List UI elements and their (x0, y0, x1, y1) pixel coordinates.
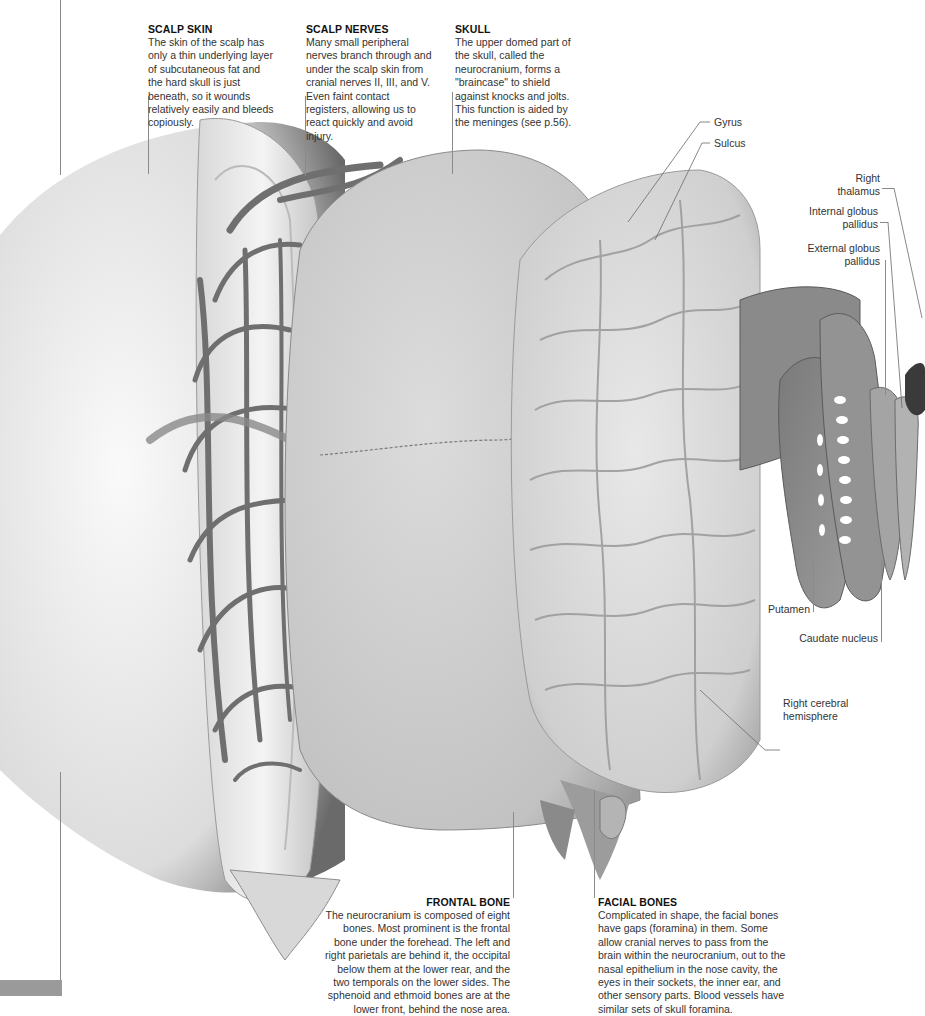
caption-body: Complicated in shape, the facial bones h… (598, 909, 794, 1016)
caption-scalp-skin: SCALP SKIN The skin of the scalp has onl… (148, 23, 276, 130)
leader-line-left-margin (60, 0, 61, 175)
label-right-thalamus: Right thalamus (820, 172, 880, 198)
leader-line-frontal-bone (513, 812, 514, 898)
leader-line-int-globus-h (880, 222, 888, 223)
caption-body: The neurocranium is composed of eight bo… (322, 909, 510, 1016)
leader-line-skull (452, 92, 453, 174)
label-right-cerebral-hemisphere: Right cerebral hemisphere (783, 697, 848, 723)
caption-skull: SKULL The upper domed part of the skull,… (455, 23, 573, 130)
label-internal-globus-pallidus: Internal globus pallidus (770, 205, 878, 231)
caption-title: SCALP NERVES (306, 23, 434, 36)
leader-line-putamen (813, 560, 814, 612)
caption-title: FRONTAL BONE (322, 896, 510, 909)
leader-line-thalamus-h (882, 188, 894, 189)
label-caudate-nucleus: Caudate nucleus (780, 632, 878, 645)
caption-facial-bones: FACIAL BONES Complicated in shape, the f… (598, 896, 794, 1016)
caption-title: SCALP SKIN (148, 23, 276, 36)
brain-hemisphere-shape (511, 170, 760, 793)
caption-title: FACIAL BONES (598, 896, 794, 909)
page-corner-tab (0, 980, 62, 996)
leader-line-facial-bones (594, 790, 595, 898)
label-putamen: Putamen (760, 603, 810, 616)
caption-body: Many small peripheral nerves branch thro… (306, 36, 434, 143)
caption-frontal-bone: FRONTAL BONE The neurocranium is compose… (322, 896, 510, 1016)
label-sulcus: Sulcus (714, 137, 746, 150)
basal-ganglia-shape (740, 287, 925, 608)
label-gyrus: Gyrus (714, 116, 742, 129)
leader-line-left-margin-bottom (60, 772, 61, 982)
caption-scalp-nerves: SCALP NERVES Many small peripheral nerve… (306, 23, 434, 143)
caption-title: SKULL (455, 23, 573, 36)
leader-line-caudate (881, 560, 882, 642)
caption-body: The skin of the scalp has only a thin un… (148, 36, 276, 130)
leader-line-ext-globus (885, 260, 886, 395)
label-external-globus-pallidus: External globus pallidus (770, 242, 880, 268)
caption-body: The upper domed part of the skull, calle… (455, 36, 573, 130)
